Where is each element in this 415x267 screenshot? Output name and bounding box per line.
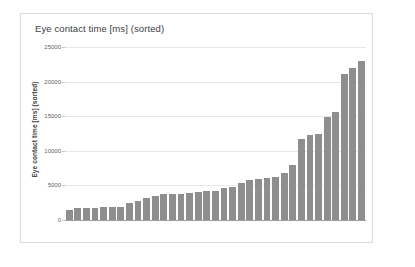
bar	[169, 194, 176, 220]
bar	[126, 203, 133, 220]
bar	[203, 191, 210, 220]
bar	[255, 179, 262, 220]
bar	[281, 173, 288, 220]
chart-card: Eye contact time [ms] (sorted) Eye conta…	[20, 13, 373, 243]
bar	[195, 192, 202, 220]
bar	[221, 188, 228, 220]
bar	[358, 61, 365, 220]
bar	[143, 198, 150, 220]
bar	[152, 196, 159, 220]
bar	[349, 68, 356, 220]
bar	[66, 210, 73, 220]
y-tick-label: 0	[58, 216, 61, 224]
chart-title: Eye contact time [ms] (sorted)	[35, 23, 164, 34]
y-tick-mark	[62, 220, 65, 221]
bar	[229, 187, 236, 220]
plot-area: 0500010000150002000025000	[65, 47, 366, 220]
bar	[298, 139, 305, 220]
bar	[109, 207, 116, 220]
bar	[100, 207, 107, 220]
y-axis-label: Eye contact time [ms] (sorted)	[31, 70, 38, 190]
bar	[117, 207, 124, 220]
y-tick-label: 5000	[48, 181, 61, 189]
bar	[272, 177, 279, 220]
bar	[135, 201, 142, 220]
bar	[160, 194, 167, 220]
bar	[332, 112, 339, 220]
y-tick-label: 10000	[44, 147, 61, 155]
bar	[289, 165, 296, 220]
bar	[83, 208, 90, 220]
bar	[315, 134, 322, 220]
bar	[212, 191, 219, 220]
bar-series	[65, 47, 366, 220]
bar	[264, 178, 271, 220]
bar	[74, 208, 81, 220]
y-tick-label: 15000	[44, 112, 61, 120]
bar	[186, 193, 193, 220]
bar	[238, 183, 245, 220]
bar	[307, 135, 314, 220]
y-tick-label: 25000	[44, 43, 61, 51]
bar	[324, 117, 331, 220]
y-tick-label: 20000	[44, 78, 61, 86]
bar	[178, 194, 185, 220]
x-axis-baseline	[65, 220, 366, 221]
bar	[341, 74, 348, 220]
bar	[92, 208, 99, 220]
bar	[246, 180, 253, 220]
